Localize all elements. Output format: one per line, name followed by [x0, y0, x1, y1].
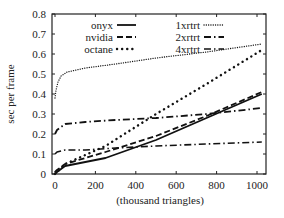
- x-tick-label: 800: [208, 179, 225, 191]
- x-tick-label: 200: [87, 179, 104, 191]
- legend: onyxnvidiaoctane1xrtrt2xrtrt4xrtrt: [84, 19, 224, 55]
- x-tick-label: 0: [52, 179, 58, 191]
- x-tick-label: 600: [168, 179, 185, 191]
- y-tick-label: 0.4: [32, 88, 46, 100]
- series-line-onyx: [55, 94, 262, 174]
- series-line-nvidia: [55, 92, 262, 172]
- legend-label-nvidia: nvidia: [86, 31, 114, 43]
- y-tick-label: 0.5: [32, 68, 46, 80]
- series-line-4xrtrt: [55, 142, 262, 154]
- y-tick-label: 0: [41, 168, 47, 180]
- legend-label-octane: octane: [84, 43, 113, 55]
- legend-label-2xrtrt: 2xrtrt: [176, 31, 200, 43]
- y-tick-label: 0.2: [32, 128, 46, 140]
- legend-label-onyx: onyx: [91, 19, 114, 31]
- y-axis-label: sec per frame: [4, 64, 16, 123]
- plot-series: [55, 44, 262, 174]
- legend-label-4xrtrt: 4xrtrt: [176, 43, 200, 55]
- y-tick-label: 0.6: [32, 48, 46, 60]
- y-tick-label: 0.1: [32, 148, 46, 160]
- y-tick-label: 0.8: [32, 8, 46, 20]
- y-tick-label: 0.3: [32, 108, 46, 120]
- x-tick-label: 1000: [246, 179, 269, 191]
- line-chart: 00.10.20.30.40.50.60.70.8020040060080010…: [0, 0, 284, 218]
- axes: 00.10.20.30.40.50.60.70.8020040060080010…: [32, 8, 268, 191]
- legend-label-1xrtrt: 1xrtrt: [176, 19, 200, 31]
- x-axis-label: (thousand triangles): [116, 194, 204, 207]
- y-tick-label: 0.7: [32, 28, 46, 40]
- x-tick-label: 400: [128, 179, 145, 191]
